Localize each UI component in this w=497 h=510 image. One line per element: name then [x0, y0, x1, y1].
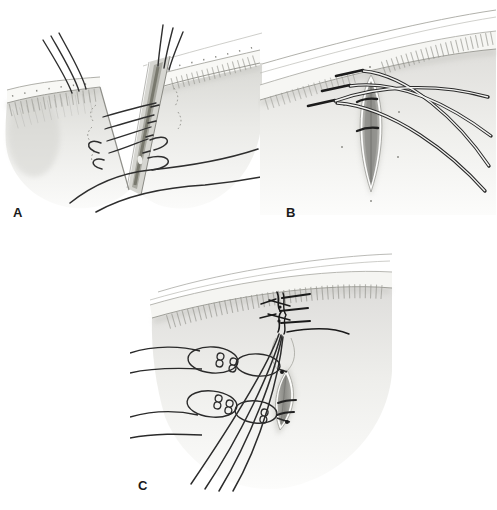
illustration-b-vertical-incision	[258, 5, 497, 215]
illustration-a-wedge-resection	[0, 5, 270, 220]
panel-a	[0, 5, 270, 220]
eyelid-skin	[152, 287, 392, 489]
figure-canvas: A B C	[0, 0, 497, 510]
panel-label-b: B	[286, 206, 296, 219]
illustration-c-bolster-sutures	[130, 252, 397, 504]
panel-b	[258, 5, 497, 215]
panel-c	[130, 252, 397, 504]
panel-label-a: A	[13, 206, 23, 219]
panel-label-c: C	[138, 479, 148, 492]
